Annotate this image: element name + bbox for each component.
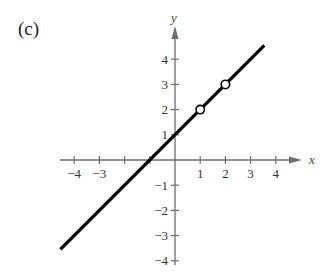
y-tick-label: −2 (154, 203, 168, 218)
y-tick-label: 4 (162, 52, 169, 67)
y-tick-label: 2 (162, 102, 169, 117)
y-tick-label: −1 (154, 178, 168, 193)
x-axis-label: x (308, 152, 315, 167)
x-tick-label: −3 (92, 166, 106, 181)
y-axis-arrow-icon (172, 26, 179, 39)
y-tick-label: 1 (162, 127, 169, 142)
x-tick-label: 3 (247, 166, 254, 181)
line-graph: xy−4−31234−4−3−2−11234 (0, 0, 330, 278)
y-tick-label: 3 (162, 77, 169, 92)
open-circle-point (196, 105, 204, 113)
y-tick-label: −3 (154, 228, 168, 243)
y-axis-label: y (169, 10, 177, 25)
x-axis-arrow-icon (289, 157, 302, 164)
x-tick-label: 2 (222, 166, 229, 181)
y-tick-label: −4 (154, 253, 168, 268)
x-tick-label: 4 (273, 166, 280, 181)
open-circle-point (221, 80, 229, 88)
x-tick-label: 1 (197, 166, 204, 181)
x-tick-label: −4 (67, 166, 81, 181)
